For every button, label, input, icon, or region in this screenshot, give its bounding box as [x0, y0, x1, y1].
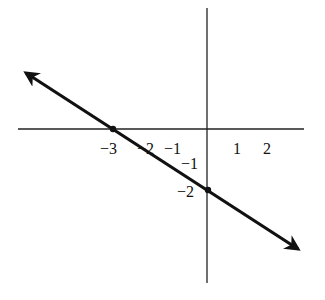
x-tick-label: 2	[263, 140, 271, 157]
y-tick-label: −1	[181, 155, 198, 172]
x-tick-label: 1	[233, 140, 241, 157]
y-intercept-point	[205, 187, 211, 193]
x-tick-label: −1	[164, 140, 181, 157]
graph-line	[26, 73, 298, 249]
coordinate-plane: −3 −2 −1 1 2 −1 −2	[0, 0, 325, 300]
x-tick-label: −3	[100, 140, 117, 157]
x-intercept-point	[110, 126, 116, 132]
y-tick-label: −2	[177, 183, 194, 200]
x-tick-label: −2	[137, 140, 154, 157]
